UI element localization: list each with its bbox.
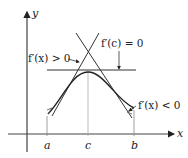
tick-label-b: b — [131, 139, 138, 152]
label-fprime-positive: f′(x) > 0 — [28, 52, 71, 64]
tick-label-a: a — [44, 139, 51, 152]
tick-labels: a c b — [44, 139, 138, 152]
tick-label-c: c — [85, 139, 91, 152]
x-axis: x — [8, 127, 184, 140]
label-fprime-zero: f′(c) = 0 — [101, 37, 144, 49]
derivative-sign-diagram: y x a c b f′(x) > 0 — [0, 0, 188, 158]
annotation-decreasing: f′(x) < 0 — [129, 99, 181, 111]
x-axis-label: x — [177, 127, 184, 140]
annotation-critical: f′(c) = 0 — [101, 37, 144, 69]
tangent-line-increasing — [52, 33, 99, 116]
guide-lines — [47, 70, 134, 136]
function-curve — [48, 72, 134, 114]
annotation-increasing: f′(x) > 0 — [28, 52, 79, 64]
label-fprime-negative: f′(x) < 0 — [138, 99, 181, 111]
y-axis-label: y — [31, 7, 39, 20]
y-axis: y — [27, 7, 39, 152]
